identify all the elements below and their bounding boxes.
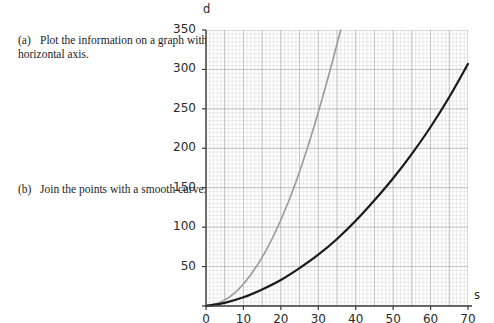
axis-layer bbox=[0, 0, 494, 323]
worksheet-page: (a) Plot the information on a graph with… bbox=[0, 0, 494, 323]
graph-figure: d s 50100150200250300350 010203040506070 bbox=[0, 0, 494, 323]
